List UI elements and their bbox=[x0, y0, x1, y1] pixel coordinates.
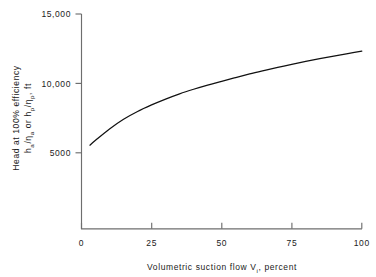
y-title-or: or bbox=[23, 117, 33, 132]
chart-svg: 15,000 10,000 5000 0 25 50 75 100 Volume… bbox=[0, 0, 376, 277]
x-axis-title-tail: , percent bbox=[258, 262, 297, 272]
y-axis-title-line2: ha/ηa or hp/ηp, ft bbox=[23, 83, 35, 153]
y-axis-title-line1: Head at 100% efficiency bbox=[11, 65, 21, 170]
x-axis-title-main: Volumetric suction flow V bbox=[147, 262, 256, 272]
y-tick-label-10000: 10,000 bbox=[41, 79, 71, 89]
x-tick-label-25: 25 bbox=[146, 238, 157, 248]
x-tick-label-50: 50 bbox=[216, 238, 227, 248]
x-axis-title: Volumetric suction flow Vi, percent bbox=[147, 262, 297, 274]
y-tick-label-15000: 15,000 bbox=[41, 9, 71, 19]
x-tick-label-0: 0 bbox=[79, 238, 84, 248]
y-title-tail: , ft bbox=[23, 83, 33, 95]
y-tick-label-5000: 5000 bbox=[50, 148, 71, 158]
x-tick-label-100: 100 bbox=[354, 238, 370, 248]
x-tick-label-75: 75 bbox=[287, 238, 298, 248]
chart-figure: 15,000 10,000 5000 0 25 50 75 100 Volume… bbox=[0, 0, 376, 277]
chart-background bbox=[0, 0, 376, 277]
